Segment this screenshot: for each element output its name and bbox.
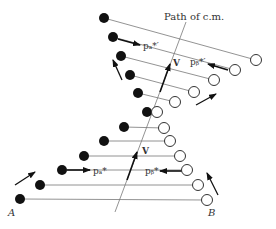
pb-label: pᵦ* <box>145 166 159 176</box>
motion-arrow-a-in <box>15 172 35 185</box>
pa-prime-arrow <box>118 39 140 45</box>
cm-path-label: Path of c.m. <box>164 11 224 22</box>
pb-prime-label: pᵦ*′ <box>190 57 206 67</box>
motion-arrow-a-out <box>113 60 122 80</box>
particle-b-positions <box>152 55 262 206</box>
point-a-label: A <box>7 207 15 218</box>
v-label-upper: V <box>172 58 181 68</box>
point-b-label: B <box>207 207 215 218</box>
pa-label: pₐ* <box>93 166 107 176</box>
motion-arrow-b-out <box>196 94 216 105</box>
collision-diagram: Path of c.m. V V pₐ*′ pᵦ*′ pₐ* pᵦ* A B <box>0 0 276 229</box>
v-arrow-upper <box>160 64 170 92</box>
v-label-lower: V <box>141 146 150 156</box>
pair-lines <box>20 18 256 200</box>
pa-prime-label: pₐ*′ <box>143 41 159 51</box>
motion-arrow-b-in <box>207 173 218 195</box>
